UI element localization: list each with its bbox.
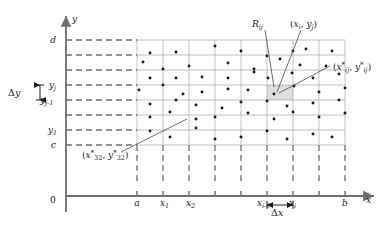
y-tick-label-c: c: [51, 140, 56, 150]
figure-riemann-partition: x y 0 a x1 x2 xi-1 xi b d yj yj-1 y1 c Δ…: [0, 0, 388, 229]
sample-point-dot: [169, 111, 172, 114]
sample-point-dot: [175, 51, 178, 54]
delta-x-label: Δx: [271, 207, 284, 218]
label-sample-point-32: (x*32, y*32): [82, 149, 129, 163]
sample-point-dot: [149, 130, 152, 133]
sample-point-dot: [221, 107, 224, 110]
sample-point-dot: [175, 99, 178, 102]
sample-point-dot: [344, 112, 347, 115]
leader-lines: [121, 30, 330, 152]
sample-point-dot: [201, 91, 204, 94]
sample-point-dot: [195, 127, 198, 130]
x-tick-label-xi-minus-1: xi-1: [257, 198, 271, 210]
y-tick-label-yj-minus-1: yj-1: [39, 95, 53, 107]
y-axis-label: y: [71, 14, 78, 24]
sample-point-dot: [227, 77, 230, 80]
sample-point-dot: [267, 77, 270, 80]
sample-point-dot: [240, 101, 243, 104]
x-tick-label-a: a: [134, 198, 139, 208]
sample-point-dot: [240, 50, 243, 53]
sample-point-dot: [175, 77, 178, 80]
delta-y-label: Δy: [8, 87, 21, 98]
y-tick-label-yj: yj: [48, 80, 56, 92]
sample-point-dot: [247, 89, 250, 92]
sample-point-dot: [299, 64, 302, 67]
sample-point-dot: [344, 87, 347, 90]
sample-point-dot: [195, 118, 198, 121]
y-tick-label-y1: y1: [47, 125, 57, 137]
dashed-horizontal-guides: [66, 40, 137, 145]
sample-point-dot: [149, 77, 152, 80]
sample-point-dot: [182, 93, 185, 96]
sample-point-dot: [253, 68, 256, 71]
sample-point-dot: [266, 130, 269, 133]
sample-point-dot: [266, 100, 269, 103]
label-corner-point-xi-yj: (xi, yj): [290, 19, 317, 31]
sample-point-dot: [253, 71, 256, 74]
sample-point-dot: [214, 138, 217, 141]
sample-point-dot: [286, 138, 289, 141]
x-tick-label-b: b: [342, 198, 348, 208]
sample-point-dot: [169, 136, 172, 139]
sample-point-dot: [279, 58, 282, 61]
sample-point-dot: [214, 116, 217, 119]
sample-point-dot: [149, 116, 152, 119]
sample-point-dot: [305, 48, 308, 51]
x-tick-label-x1: x1: [160, 198, 169, 210]
sample-point-dot: [227, 88, 230, 91]
sample-point-dot: [286, 105, 289, 108]
sample-point-dot: [162, 68, 165, 71]
sample-point-dot: [312, 77, 315, 80]
sample-point-dot: [312, 133, 315, 136]
sample-point-dot: [318, 116, 321, 119]
sample-point-dot: [240, 136, 243, 139]
sample-point-dot: [318, 91, 321, 94]
sample-point-dot: [138, 89, 141, 92]
sample-point-dot: [338, 73, 341, 76]
sample-point-dot: [292, 111, 295, 114]
sample-point-dot: [331, 50, 334, 53]
grid-lines: [137, 40, 345, 145]
origin-label: 0: [50, 195, 56, 205]
sample-point-dot: [247, 112, 250, 115]
sample-point-dot: [142, 61, 145, 64]
sample-point-dot: [273, 118, 276, 121]
label-Rij: Rij: [251, 19, 263, 31]
sample-point-dot: [266, 55, 269, 58]
sample-point-dot: [325, 65, 328, 68]
sample-point-dot: [195, 104, 198, 107]
sample-point-dot: [162, 84, 165, 87]
sample-point-dot: [273, 93, 276, 96]
sample-point-dot: [291, 72, 294, 75]
sample-point-dots: [138, 45, 347, 141]
sample-point-dot: [201, 76, 204, 79]
sample-point-dot: [188, 65, 191, 68]
dashed-vertical-guides: [137, 145, 345, 185]
y-tick-label-d: d: [50, 35, 56, 45]
label-sample-point-ij: (x*ij, y*ij): [333, 61, 371, 75]
sample-point-dot: [214, 45, 217, 48]
sample-point-dot: [149, 103, 152, 106]
sample-point-dot: [338, 99, 341, 102]
sample-point-dot: [312, 102, 315, 105]
x-tick-label-x2: x2: [186, 198, 195, 210]
sample-point-dot: [227, 62, 230, 65]
x-axis-label: x: [366, 195, 371, 205]
sample-point-dot: [331, 136, 334, 139]
sample-point-dot: [149, 52, 152, 55]
diagram-svg: x y 0 a x1 x2 xi-1 xi b d yj yj-1 y1 c Δ…: [0, 0, 388, 229]
